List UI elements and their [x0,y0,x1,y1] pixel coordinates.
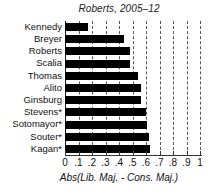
bar-row [65,118,200,130]
bar-series [65,21,200,155]
x-tick [200,151,201,156]
y-axis-label-roberts: Roberts [0,46,62,56]
bar-row [65,58,200,70]
x-tick-label: .9 [182,157,190,168]
bar-row [65,131,200,143]
plot-area [65,21,200,155]
x-tick-label: 1 [197,157,203,168]
x-tick [146,151,147,156]
x-tick-label: .8 [169,157,177,168]
x-tick [79,151,80,156]
bar-sotomayor [65,121,147,129]
bar-row [65,106,200,118]
y-axis-label-stevens: Stevens* [0,107,62,117]
x-tick-label: .4 [115,157,123,168]
x-axis-ticks [65,151,200,156]
bar-row [65,82,200,94]
bar-kennedy [65,23,88,31]
y-axis-label-sotomayor: Sotomayor* [0,119,62,129]
y-axis-label-thomas: Thomas [0,71,62,81]
x-axis-title: Abs(Lib. Maj. - Cons. Maj.) [0,172,210,183]
x-tick-label: 0 [62,157,68,168]
bar-souter [65,133,149,141]
bar-row [65,33,200,45]
x-tick [187,151,188,156]
x-tick-label: .2 [88,157,96,168]
x-tick-label: .1 [74,157,82,168]
x-tick-label: .3 [101,157,109,168]
chart-title: Roberts, 2005–12 [0,3,210,14]
chart-screenshot: Roberts, 2005–12 KennedyBreyerRobertsSca… [0,0,210,196]
y-axis-labels: KennedyBreyerRobertsScaliaThomasAlitoGin… [0,21,62,155]
x-axis-tick-labels: 0.1.2.3.4.5.6.7.8.91 [65,157,200,170]
bar-alito [65,84,141,92]
y-axis-label-ginsburg: Ginsburg [0,95,62,105]
bar-roberts [65,47,130,55]
y-axis-label-kennedy: Kennedy [0,22,62,32]
bar-row [65,45,200,57]
y-axis-label-kagan: Kagan* [0,144,62,154]
y-axis-label-souter: Souter* [0,132,62,142]
gridline-1 [200,21,201,155]
bar-stevens [65,108,146,116]
x-tick [119,151,120,156]
bar-ginsburg [65,96,141,104]
x-tick [92,151,93,156]
bar-scalia [65,60,130,68]
x-tick [133,151,134,156]
bar-row [65,94,200,106]
bar-thomas [65,72,138,80]
y-axis-label-breyer: Breyer [0,34,62,44]
bar-row [65,21,200,33]
bar-breyer [65,35,124,43]
x-tick-label: .6 [142,157,150,168]
x-tick [173,151,174,156]
x-tick [106,151,107,156]
y-axis-label-alito: Alito [0,83,62,93]
x-tick-label: .7 [155,157,163,168]
bar-row [65,70,200,82]
x-tick-label: .5 [128,157,136,168]
x-tick [65,151,66,156]
y-axis-label-scalia: Scalia [0,58,62,68]
x-tick [160,151,161,156]
